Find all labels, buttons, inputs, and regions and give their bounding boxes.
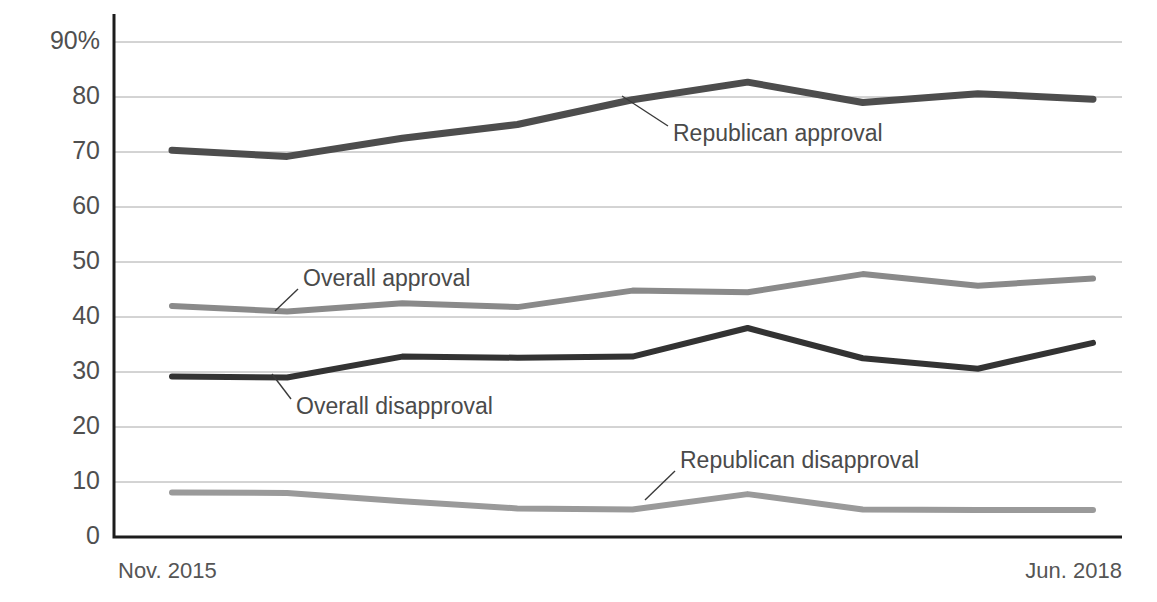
chart-canvas: 90%80706050403020100 Republican approval… bbox=[0, 0, 1157, 602]
y-tick-label-90: 90% bbox=[50, 26, 100, 54]
y-tick-label-10: 10 bbox=[72, 466, 100, 494]
y-tick-label-30: 30 bbox=[72, 356, 100, 384]
y-tick-label-50: 50 bbox=[72, 246, 100, 274]
y-axis-tick-labels: 90%80706050403020100 bbox=[50, 26, 100, 549]
x-axis-start-label: Nov. 2015 bbox=[118, 558, 217, 583]
y-tick-label-0: 0 bbox=[86, 521, 100, 549]
y-tick-label-70: 70 bbox=[72, 136, 100, 164]
gridlines bbox=[114, 42, 1122, 482]
series-line-republican-disapproval bbox=[172, 492, 1093, 510]
series-line-overall-disapproval bbox=[172, 328, 1093, 378]
leader-line-republican-disapproval bbox=[645, 471, 675, 500]
series-label-republican-approval: Republican approval bbox=[673, 120, 883, 146]
series-line-republican-approval bbox=[172, 82, 1093, 156]
x-axis-end-label: Jun. 2018 bbox=[1025, 558, 1122, 583]
series-label-republican-disapproval: Republican disapproval bbox=[680, 447, 919, 473]
y-tick-label-60: 60 bbox=[72, 191, 100, 219]
y-tick-label-20: 20 bbox=[72, 411, 100, 439]
y-tick-label-80: 80 bbox=[72, 81, 100, 109]
leader-line-overall-approval bbox=[275, 289, 298, 311]
data-series-group bbox=[172, 82, 1093, 510]
y-tick-label-40: 40 bbox=[72, 301, 100, 329]
series-label-overall-approval: Overall approval bbox=[303, 265, 470, 291]
approval-line-chart: 90%80706050403020100 Republican approval… bbox=[0, 0, 1157, 602]
series-label-overall-disapproval: Overall disapproval bbox=[296, 393, 493, 419]
